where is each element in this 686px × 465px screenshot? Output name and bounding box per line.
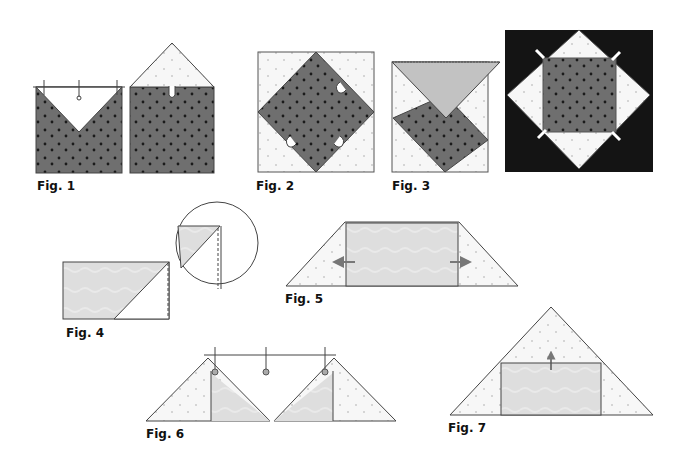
figure-1-label: Fig. 1 bbox=[37, 179, 75, 193]
figure-4 bbox=[63, 202, 258, 319]
figure-4-label: Fig. 4 bbox=[66, 326, 104, 340]
figure-5-label: Fig. 5 bbox=[285, 292, 323, 306]
figure-2 bbox=[258, 52, 374, 172]
figure-3-label: Fig. 3 bbox=[392, 179, 430, 193]
figure-1 bbox=[33, 43, 214, 173]
figure-7-label: Fig. 7 bbox=[448, 421, 486, 435]
figure-2-label: Fig. 2 bbox=[256, 179, 294, 193]
figure-6-label: Fig. 6 bbox=[146, 427, 184, 441]
figure-7 bbox=[450, 307, 653, 415]
figure-3 bbox=[392, 62, 500, 172]
figure-6 bbox=[146, 347, 396, 421]
figure-5 bbox=[286, 222, 518, 286]
diagram-canvas bbox=[0, 0, 686, 465]
figure-block bbox=[505, 30, 653, 172]
pressing-arrow-icon bbox=[169, 86, 175, 98]
